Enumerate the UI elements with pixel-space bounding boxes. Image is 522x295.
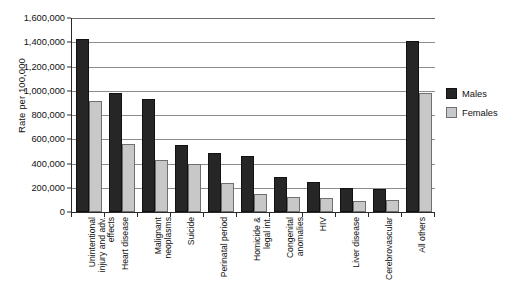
bar-group [171, 18, 204, 212]
y-axis-tick-label: 400,000 [31, 159, 65, 169]
x-axis-label-line: All others [418, 217, 428, 253]
bar-group [402, 18, 435, 212]
bar-group [303, 18, 336, 212]
bar-females[interactable] [254, 194, 267, 212]
y-axis-tick-label: 200,000 [31, 183, 65, 193]
bar-males[interactable] [76, 39, 89, 212]
x-axis-label-slot: Heart disease [106, 217, 136, 295]
y-axis-tick-label: 1,400,000 [24, 37, 65, 47]
y-axis-tick-label: 800,000 [31, 110, 65, 120]
bar-females[interactable] [287, 197, 300, 212]
y-axis-ticks: 1,600,0001,400,0001,200,0001,000,000800,… [0, 18, 71, 212]
x-axis-label-line: Unintentional [88, 217, 98, 272]
bar-males[interactable] [175, 145, 188, 212]
legend-swatch-males [446, 88, 457, 99]
x-axis-label-slot: Homicide &legal int. [238, 217, 268, 295]
bar-females[interactable] [419, 93, 432, 212]
bar-females[interactable] [353, 201, 366, 212]
bar-males[interactable] [274, 177, 287, 212]
legend-item[interactable]: Females [446, 107, 516, 118]
bar-males[interactable] [406, 41, 419, 212]
x-axis-label-line: Congenital [286, 217, 296, 258]
x-axis-label-slot: All others [403, 217, 433, 295]
plot-area [71, 18, 435, 213]
y-axis-tick-label: 600,000 [31, 134, 65, 144]
bar-males[interactable] [373, 189, 386, 212]
bar-females[interactable] [188, 164, 201, 213]
x-axis-label: Liver disease [352, 217, 362, 268]
bar-males[interactable] [142, 99, 155, 212]
x-axis-label-slot: Cerebrovascular [370, 217, 400, 295]
x-axis-label: Heart disease [121, 217, 131, 270]
y-axis-tick-label: 1,200,000 [24, 62, 65, 72]
bar-males[interactable] [208, 153, 221, 212]
x-axis-label-slot: Liver disease [337, 217, 367, 295]
x-axis-label-line: Perinatal period [220, 217, 230, 277]
x-axis-label: Perinatal period [220, 217, 230, 277]
bar-females[interactable] [155, 160, 168, 212]
x-axis-label: HIV [319, 217, 329, 231]
x-axis-label-slot: Unintentionalinjury and adv.effects [73, 217, 103, 295]
bar-group [204, 18, 237, 212]
y-axis-tick-label: 0 [60, 207, 65, 217]
x-axis-label: Cerebrovascular [385, 217, 395, 280]
bar-group [270, 18, 303, 212]
chart-legend: MalesFemales [446, 88, 516, 126]
bar-group [72, 18, 105, 212]
x-axis-label-line: Malignant [154, 217, 164, 259]
bar-females[interactable] [221, 183, 234, 212]
bar-group [237, 18, 270, 212]
bar-males[interactable] [241, 156, 254, 212]
bar-males[interactable] [340, 188, 353, 212]
x-axis-label-line: Homicide & [253, 217, 263, 261]
x-axis-label: Malignantneoplasms [154, 217, 173, 259]
legend-item[interactable]: Males [446, 88, 516, 99]
bar-group [105, 18, 138, 212]
x-axis-label-slot: Congenitalanomalies [271, 217, 301, 295]
x-axis-tick-mark [434, 212, 435, 217]
x-axis-label-slot: HIV [304, 217, 334, 295]
bar-females[interactable] [320, 198, 333, 212]
y-axis-tick-label: 1,600,000 [24, 13, 65, 23]
legend-label: Females [462, 108, 498, 118]
y-axis-tick-label: 1,000,000 [24, 86, 65, 96]
legend-label: Males [462, 89, 487, 99]
x-axis-label-slot: Suicide [172, 217, 202, 295]
bar-females[interactable] [386, 200, 399, 212]
bar-group [138, 18, 171, 212]
bar-group [369, 18, 402, 212]
bar-females[interactable] [89, 101, 102, 212]
x-axis-label-line: Heart disease [121, 217, 131, 270]
bars-layer [72, 18, 435, 212]
x-axis-label-line: Suicide [187, 217, 197, 245]
x-axis-label-slot: Perinatal period [205, 217, 235, 295]
bar-chart: Rate per 100,000 1,600,0001,400,0001,200… [0, 0, 522, 295]
bar-males[interactable] [109, 93, 122, 212]
x-axis-labels: Unintentionalinjury and adv.effectsHeart… [71, 217, 434, 295]
x-axis-label-line: Liver disease [352, 217, 362, 268]
x-axis-label: Homicide &legal int. [253, 217, 272, 261]
x-axis-label-slot: Malignantneoplasms [139, 217, 169, 295]
bar-males[interactable] [307, 182, 320, 212]
bar-group [336, 18, 369, 212]
x-axis-label-line: HIV [319, 217, 329, 231]
x-axis-label: All others [418, 217, 428, 253]
x-axis-label-line: Cerebrovascular [385, 217, 395, 280]
legend-swatch-females [446, 107, 457, 118]
x-axis-label: Suicide [187, 217, 197, 245]
x-axis-label: Congenitalanomalies [286, 217, 305, 258]
bar-females[interactable] [122, 144, 135, 213]
